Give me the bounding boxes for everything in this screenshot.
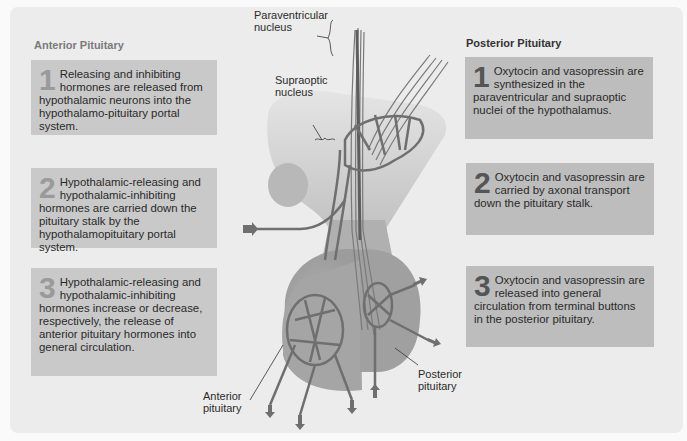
posterior-pituitary-label: Posterior pituitary	[418, 368, 462, 392]
anterior-pituitary-label: Anterior pituitary	[203, 390, 242, 414]
label-line: Anterior	[203, 390, 242, 402]
pituitary-diagram	[0, 0, 687, 441]
paraventricular-label: Paraventricular nucleus	[254, 9, 328, 33]
label-line: Paraventricular	[254, 9, 328, 21]
supraoptic-label: Supraoptic nucleus	[275, 74, 328, 98]
label-line: Posterior	[418, 368, 462, 380]
label-line: nucleus	[254, 21, 328, 33]
label-line: nucleus	[275, 86, 328, 98]
label-line: pituitary	[203, 402, 242, 414]
label-line: Supraoptic	[275, 74, 328, 86]
label-line: pituitary	[418, 380, 462, 392]
